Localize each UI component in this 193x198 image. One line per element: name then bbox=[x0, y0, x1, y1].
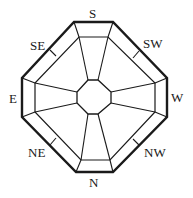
label-se: SE bbox=[30, 38, 45, 53]
center-octagon bbox=[77, 80, 111, 114]
label-nw: NW bbox=[144, 145, 166, 160]
compass-diagram: S SW W NW N NE E SE bbox=[0, 0, 193, 198]
label-sw: SW bbox=[143, 36, 163, 51]
label-w: W bbox=[171, 90, 184, 105]
label-n: N bbox=[89, 175, 99, 190]
label-ne: NE bbox=[28, 145, 45, 160]
label-s: S bbox=[89, 6, 96, 21]
label-e: E bbox=[9, 91, 17, 106]
